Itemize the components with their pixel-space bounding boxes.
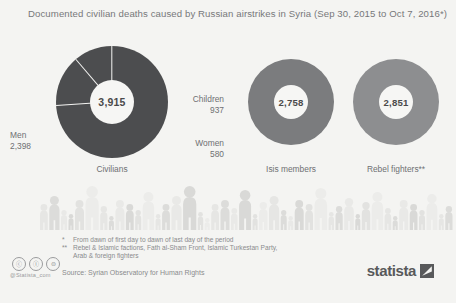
footnote-2: **Rebel & Islamic factions, Fath al-Sham…: [62, 244, 392, 252]
person-head: [270, 196, 279, 205]
slice-label-women-text: Women: [195, 138, 224, 148]
person-body: [305, 211, 313, 230]
person-head: [101, 206, 107, 212]
person-head: [253, 214, 257, 218]
person-head: [163, 204, 170, 211]
person-head: [212, 204, 219, 211]
person-head: [260, 202, 267, 209]
person-body: [61, 215, 67, 230]
person-head: [439, 214, 443, 218]
person-body: [344, 206, 354, 230]
person-body: [281, 215, 287, 230]
person-body: [362, 209, 370, 230]
page-title: Documented civilian deaths caused by Rus…: [28, 8, 448, 19]
slice-label-children: Children 937: [168, 94, 224, 116]
person-body: [410, 211, 418, 230]
footnote-2-text: Rebel & Islamic factions, Fath al-Sham F…: [73, 244, 277, 251]
person-head: [69, 214, 73, 218]
person-body: [109, 220, 114, 230]
person-body: [393, 220, 398, 230]
people-silhouette-graphic: [0, 178, 456, 234]
slice-label-children-text: Children: [193, 94, 224, 104]
person-head: [116, 200, 124, 208]
donut-chart-civilians: 3,915 Civilians: [56, 46, 168, 158]
footnote-1-text: From dawn of first day to dawn of last d…: [73, 236, 234, 243]
person-body: [231, 214, 238, 230]
slice-label-women: Women 580: [168, 138, 224, 160]
person-body: [315, 199, 328, 230]
slice-label-men: Men 2,398: [10, 130, 58, 152]
person-body: [126, 211, 134, 230]
person-body: [295, 208, 304, 230]
footnote-1-mark: *: [62, 236, 73, 244]
person-head: [446, 206, 452, 212]
people-silhouette-band: [0, 178, 456, 234]
person-body: [427, 203, 438, 230]
person-body: [445, 212, 452, 230]
person-head: [86, 186, 98, 198]
person-head: [329, 212, 334, 217]
person-head: [240, 190, 251, 201]
donut-center-value-isis: 2,758: [274, 85, 308, 119]
person-body: [49, 205, 59, 230]
person-body: [162, 211, 170, 230]
person-head: [184, 186, 196, 198]
statista-wordmark: statista: [367, 262, 416, 279]
person-head: [61, 210, 66, 215]
person-body: [40, 211, 48, 230]
person-body: [69, 218, 74, 230]
chart-caption-rebels: Rebel fighters**: [316, 164, 456, 174]
person-body: [336, 212, 343, 230]
person-body: [198, 217, 203, 230]
statista-logo[interactable]: statista: [367, 262, 434, 279]
infographic-canvas: Documented civilian deaths caused by Rus…: [0, 0, 456, 303]
donut-center-value-rebels: 2,851: [379, 85, 413, 119]
person-body: [75, 208, 84, 230]
person-head: [205, 218, 209, 222]
slice-label-women-value: 580: [168, 149, 224, 160]
person-head: [231, 208, 237, 214]
person-head: [336, 206, 342, 212]
person-head: [427, 194, 437, 204]
person-body: [100, 212, 107, 230]
person-head: [156, 214, 160, 218]
person-body: [259, 209, 267, 230]
person-head: [50, 196, 59, 205]
cc-icon[interactable]: ⓒ: [12, 257, 26, 271]
creative-commons-badges[interactable]: ⓒ Ⓘ ⊜: [12, 257, 60, 271]
person-body: [269, 205, 279, 230]
person-head: [281, 210, 286, 215]
person-body: [385, 214, 392, 230]
footnotes: *From dawn of first day to dawn of last …: [62, 236, 392, 261]
person-head: [289, 216, 293, 220]
person-head: [143, 192, 153, 202]
footnote-3: Arab & foreign fighters: [62, 252, 392, 260]
person-body: [135, 215, 141, 230]
person-body: [372, 202, 383, 230]
person-head: [315, 188, 326, 199]
donut-chart-isis: 2,758 Isis members: [248, 59, 334, 145]
person-body: [355, 218, 360, 230]
source-line: Source: Syrian Observatory for Human Rig…: [62, 269, 204, 276]
donut-chart-rebels: 2,851 Rebel fighters**: [353, 59, 439, 145]
person-head: [295, 200, 303, 208]
person-head: [221, 200, 229, 208]
cc-by-icon[interactable]: Ⓘ: [29, 257, 43, 271]
person-body: [86, 197, 99, 230]
slice-label-men-value: 2,398: [10, 141, 58, 152]
person-head: [393, 216, 397, 220]
person-body: [288, 220, 293, 230]
statista-mark-icon: [420, 264, 434, 278]
person-body: [143, 202, 154, 230]
person-head: [419, 210, 424, 215]
person-body: [439, 218, 444, 230]
person-body: [156, 218, 161, 230]
person-head: [356, 214, 360, 218]
person-body: [171, 205, 181, 230]
cc-nd-icon[interactable]: ⊜: [46, 257, 60, 271]
person-head: [372, 192, 382, 202]
statista-handle: @Statista_com: [10, 272, 51, 278]
donut-ring-civilians: 3,915: [56, 46, 168, 158]
slice-label-children-value: 937: [168, 105, 224, 116]
person-head: [410, 204, 417, 211]
